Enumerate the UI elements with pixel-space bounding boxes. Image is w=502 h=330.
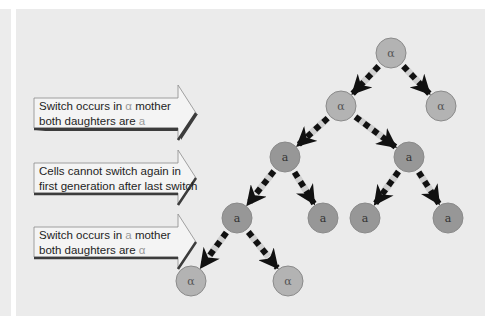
cell-node-label: a [406, 151, 413, 164]
callout-text-1: Switch occurs in α mother both daughters… [39, 99, 171, 129]
a-symbol: a [139, 115, 145, 127]
callout-3-line1-pre: Switch occurs in [39, 229, 125, 241]
cell-node-alpha: α [376, 38, 406, 68]
callout-2-line2: first generation after last switch [39, 180, 198, 192]
cell-node-label: a [362, 212, 369, 225]
callout-1-line2-pre: both daughters are [39, 115, 139, 127]
cell-node-label: a [320, 212, 327, 225]
cell-node-alpha: α [273, 266, 303, 296]
callout-text-3: Switch occurs in a mother both daughters… [39, 228, 171, 258]
alpha-symbol: α [139, 244, 146, 256]
cell-node-alpha: α [426, 91, 456, 121]
cell-node-label: α [437, 100, 445, 113]
callout-3-line2-pre: both daughters are [39, 244, 139, 256]
lineage-arrow [201, 233, 226, 268]
cell-node-alpha: α [326, 91, 356, 121]
lineage-arrow [298, 118, 328, 145]
lineage-arrow [295, 172, 314, 203]
cell-node-label: α [187, 275, 195, 288]
callout-1-line1-post: mother [132, 100, 171, 112]
callout-text-2: Cells cannot switch again in first gener… [39, 164, 198, 194]
cell-node-label: a [282, 151, 289, 164]
cell-node-label: a [234, 212, 241, 225]
lineage-arrow [375, 172, 399, 205]
lineage-arrow [353, 66, 379, 94]
callout-2-line1: Cells cannot switch again in [39, 165, 181, 177]
alpha-symbol: α [125, 100, 132, 112]
cell-node-a: a [433, 203, 463, 233]
cell-node-label: a [445, 212, 452, 225]
lineage-arrow [248, 171, 274, 204]
cell-node-label: α [337, 100, 345, 113]
cell-node-a: a [308, 203, 338, 233]
lineage-arrow [419, 172, 439, 204]
cell-node-alpha: α [176, 266, 206, 296]
cell-node-a: a [270, 142, 300, 172]
cell-node-a: a [350, 203, 380, 233]
lineage-arrow [355, 117, 395, 147]
lineage-arrow [403, 66, 429, 94]
lineage-arrow [248, 232, 277, 268]
cell-node-a: a [222, 203, 252, 233]
lineage-nodes: αααaaaaaaαα [176, 38, 463, 296]
cell-node-a: a [394, 142, 424, 172]
callout-1-line1-pre: Switch occurs in [39, 100, 125, 112]
cell-node-label: α [387, 47, 395, 60]
callout-3-line1-post: mother [132, 229, 171, 241]
cell-node-label: α [284, 275, 292, 288]
